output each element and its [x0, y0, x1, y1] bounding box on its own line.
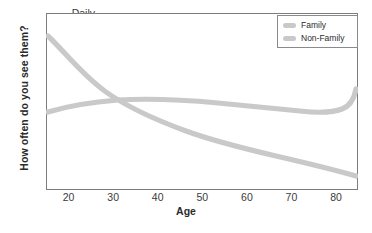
x-axis-tick-60: 60	[241, 191, 253, 203]
series-line-non-family	[48, 89, 356, 112]
chart-legend: Family Non-Family	[277, 15, 358, 48]
x-axis-tick-80: 80	[330, 191, 342, 203]
legend-label-family: Family	[301, 20, 326, 30]
x-axis-tick-30: 30	[107, 191, 119, 203]
series-line-family	[48, 36, 356, 176]
legend-swatch-family	[283, 23, 296, 28]
x-axis-tick-50: 50	[196, 191, 208, 203]
x-axis-tick-70: 70	[286, 191, 298, 203]
x-axis-title: Age	[0, 205, 372, 217]
legend-item-non-family[interactable]: Non-Family	[283, 33, 352, 43]
x-axis-tick-40: 40	[152, 191, 164, 203]
legend-label-non-family: Non-Family	[301, 33, 344, 43]
legend-swatch-non-family	[283, 36, 296, 41]
x-axis-tick-20: 20	[63, 191, 75, 203]
chart-container: How often do you see them? Daily Never F…	[0, 0, 372, 233]
y-axis-title: How often do you see them?	[18, 18, 30, 178]
legend-item-family[interactable]: Family	[283, 20, 352, 30]
